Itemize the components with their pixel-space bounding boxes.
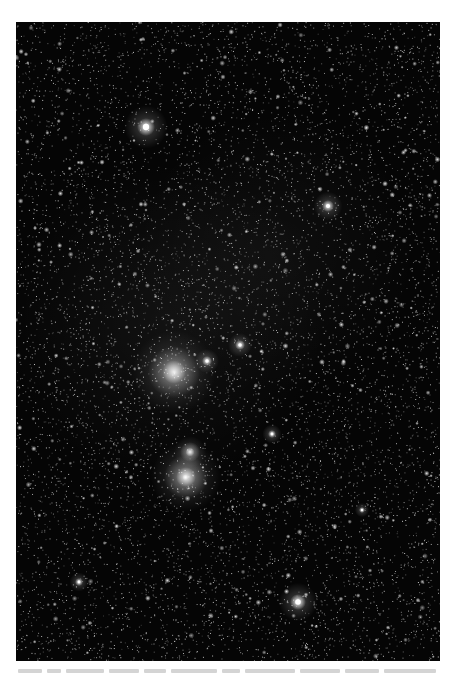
caption-text-segment [345, 669, 379, 673]
caption-text-segment [300, 669, 340, 673]
star-field-photo [16, 22, 440, 661]
caption-text-segment [18, 669, 42, 673]
caption-text-segment [384, 669, 436, 673]
star-field-canvas [16, 22, 440, 661]
caption-text-segment [66, 669, 104, 673]
figure-caption [18, 667, 438, 674]
caption-text-segment [109, 669, 139, 673]
caption-text-segment [222, 669, 240, 673]
caption-text-segment [245, 669, 295, 673]
caption-text-segment [171, 669, 217, 673]
caption-text-segment [144, 669, 166, 673]
caption-text-segment [47, 669, 61, 673]
